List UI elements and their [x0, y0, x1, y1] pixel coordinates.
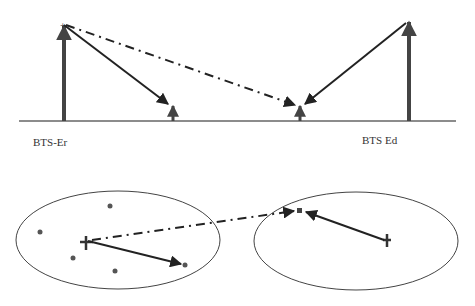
diagram-canvas: + [0, 0, 475, 306]
left-direct-arrow [64, 25, 168, 104]
left-inner-arrow [88, 241, 181, 264]
target-square-icon [297, 208, 302, 213]
cross-cell-dash-dot-arrow [92, 211, 294, 240]
left-center-cross-icon [80, 236, 93, 250]
label-bts-er: BTS-Er [33, 136, 67, 148]
dash-dot-link-arrow [66, 25, 295, 105]
right-inner-arrow [306, 212, 384, 240]
top-diagram: + [19, 20, 456, 121]
right-direct-arrow [305, 23, 406, 104]
point-dot [71, 256, 76, 261]
bottom-diagram [16, 191, 458, 290]
label-bts-ed: BTS Ed [362, 134, 397, 146]
right-center-cross-icon [383, 234, 391, 247]
right-ellipse [254, 192, 458, 290]
left-ellipse [16, 191, 220, 289]
point-dot [38, 230, 43, 235]
point-dot [108, 204, 113, 209]
point-dot [183, 263, 188, 268]
point-dot [113, 269, 118, 274]
left-antenna-top-star: + [60, 20, 66, 31]
